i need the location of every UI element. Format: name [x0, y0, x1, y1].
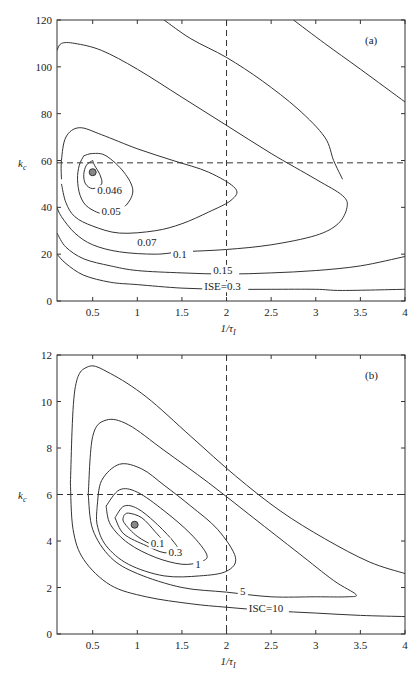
- y-tick-label: 100: [36, 61, 53, 73]
- panel-a-ise-contour-plot: 0.0460.050.070.10.15ISE=0.30.511.522.533…: [18, 14, 408, 337]
- contour-line: [106, 489, 207, 565]
- panel-tag: (b): [365, 369, 378, 382]
- contour-label: 0.3: [169, 546, 183, 558]
- y-tick-label: 120: [36, 14, 53, 26]
- contour-label: 0.15: [213, 264, 233, 276]
- x-tick-label: 3: [313, 306, 319, 318]
- x-tick-label: 4: [402, 306, 408, 318]
- y-tick-label: 12: [41, 349, 52, 361]
- x-tick-label: 1: [135, 306, 141, 318]
- x-tick-label: 3.5: [354, 639, 368, 651]
- x-tick-label: 0.5: [86, 306, 100, 318]
- y-tick-label: 10: [41, 396, 53, 408]
- x-tick-label: 1: [135, 639, 141, 651]
- x-axis-label: 1/τI: [221, 655, 237, 670]
- x-tick-label: 0.5: [86, 639, 100, 651]
- y-tick-label: 0: [47, 628, 53, 640]
- x-tick-label: 3: [313, 639, 319, 651]
- contour-lines: [70, 366, 405, 617]
- contour-line: [96, 464, 235, 577]
- x-tick-label: 1.5: [175, 639, 189, 651]
- contour-line: [88, 419, 356, 597]
- y-tick-label: 6: [47, 489, 53, 501]
- contour-label: 0.05: [102, 205, 122, 217]
- y-tick-label: 0: [47, 295, 53, 307]
- x-tick-label: 1.5: [175, 306, 189, 318]
- y-tick-label: 8: [47, 442, 53, 454]
- contour-label: 0.046: [97, 184, 122, 196]
- contour-line: [70, 366, 405, 574]
- contour-line: [61, 128, 237, 234]
- x-tick-label: 3.5: [354, 306, 368, 318]
- x-tick-label: 2.5: [264, 306, 278, 318]
- y-axis-label: kc: [18, 157, 27, 172]
- contour-label: 0.07: [137, 236, 157, 248]
- panel-tag: (a): [365, 34, 378, 47]
- x-tick-label: 2: [224, 306, 230, 318]
- y-tick-label: 4: [47, 535, 53, 547]
- contour-label: ISC=10: [249, 602, 284, 614]
- panel-b-isc-contour-plot: 0.10.315ISC=100.511.522.533.54024681012(…: [18, 349, 408, 670]
- contour-label: 1: [195, 558, 201, 570]
- y-tick-label: 20: [41, 248, 53, 260]
- contour-figure: 0.0460.050.070.10.15ISE=0.30.511.522.533…: [0, 0, 419, 677]
- optimum-point-marker: [131, 521, 138, 528]
- contour-lines: [57, 20, 405, 290]
- y-tick-label: 60: [41, 155, 53, 167]
- y-tick-label: 40: [41, 201, 53, 213]
- contour-line: [164, 20, 342, 179]
- x-tick-label: 2: [224, 639, 230, 651]
- contour-line: [57, 43, 347, 255]
- contour-label: 0.1: [173, 248, 187, 260]
- plot-frame: [57, 20, 405, 301]
- contour-line: [293, 20, 405, 102]
- contour-label: 5: [240, 585, 246, 597]
- contour-label: 0.1: [151, 537, 165, 549]
- y-tick-label: 2: [47, 582, 53, 594]
- y-axis-label: kc: [18, 489, 27, 504]
- x-axis-label: 1/τI: [221, 322, 237, 337]
- x-tick-label: 2.5: [264, 639, 278, 651]
- y-tick-label: 80: [41, 108, 53, 120]
- optimum-point-marker: [89, 169, 96, 176]
- x-tick-label: 4: [402, 639, 408, 651]
- contour-label: ISE=0.3: [204, 280, 241, 292]
